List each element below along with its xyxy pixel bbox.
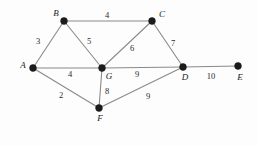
vertex-label-a: A bbox=[20, 61, 26, 70]
graph-canvas bbox=[0, 0, 257, 145]
edge-c-d bbox=[152, 21, 183, 67]
edge-c-g bbox=[102, 21, 152, 68]
vertex-e bbox=[235, 63, 242, 70]
vertex-label-c: C bbox=[159, 10, 165, 19]
edge-weight-b-g: 5 bbox=[87, 37, 91, 46]
edge-g-f bbox=[99, 68, 102, 108]
edge-weight-g-d: 9 bbox=[135, 70, 139, 79]
vertex-g bbox=[99, 65, 106, 72]
edge-weight-f-d: 9 bbox=[146, 92, 150, 101]
graph-figure: ABCDEFG 345674910289 bbox=[0, 0, 257, 145]
vertex-label-g: G bbox=[106, 72, 113, 81]
edge-a-f bbox=[33, 68, 99, 108]
vertex-d bbox=[180, 64, 187, 71]
vertex-label-d: D bbox=[182, 73, 189, 82]
edges-group bbox=[33, 21, 238, 108]
vertex-b bbox=[61, 18, 68, 25]
edge-b-g bbox=[64, 21, 102, 68]
edge-weight-a-g: 4 bbox=[68, 70, 72, 79]
vertex-a bbox=[30, 65, 37, 72]
edge-weight-a-b: 3 bbox=[36, 37, 40, 46]
edge-d-e bbox=[183, 66, 238, 67]
edge-weight-c-g: 6 bbox=[130, 44, 134, 53]
edge-weight-a-f: 2 bbox=[59, 91, 63, 100]
edge-weight-d-e: 10 bbox=[207, 72, 216, 81]
vertex-label-b: B bbox=[53, 9, 59, 18]
vertex-f bbox=[96, 105, 103, 112]
edge-weight-b-c: 4 bbox=[105, 11, 109, 20]
edge-weight-g-f: 8 bbox=[105, 87, 109, 96]
vertex-c bbox=[149, 18, 156, 25]
edge-g-d bbox=[102, 67, 183, 68]
vertex-label-f: F bbox=[97, 114, 103, 123]
vertex-label-e: E bbox=[237, 73, 243, 82]
edge-weight-c-d: 7 bbox=[171, 39, 175, 48]
